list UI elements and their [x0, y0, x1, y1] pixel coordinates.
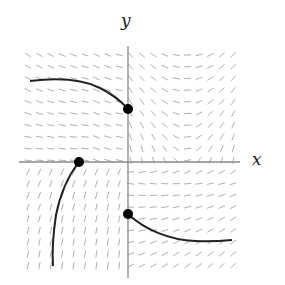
- slope-segment: [220, 134, 223, 140]
- slope-segment: [116, 113, 123, 115]
- slope-segment: [39, 239, 41, 246]
- slope-segment: [104, 148, 111, 150]
- slope-segment: [196, 263, 202, 267]
- slope-segment: [185, 264, 191, 268]
- slope-segment: [70, 89, 77, 91]
- slope-segment: [232, 145, 234, 152]
- slope-segment: [151, 76, 157, 80]
- slope-segment: [93, 89, 100, 92]
- initial-point: [74, 157, 84, 167]
- slope-segment: [162, 54, 169, 57]
- slope-segment: [173, 229, 180, 232]
- slope-segment: [70, 113, 77, 114]
- slope-segment: [150, 183, 157, 184]
- slope-segment: [116, 54, 123, 56]
- initial-point: [123, 104, 133, 114]
- slope-segment: [107, 192, 109, 199]
- slope-segment: [107, 180, 109, 187]
- slope-segment: [128, 64, 133, 70]
- slope-segment: [93, 100, 100, 103]
- slope-segment: [196, 112, 202, 115]
- slope-segment: [72, 180, 74, 187]
- slope-segment: [73, 239, 74, 246]
- slope-segment: [107, 204, 109, 211]
- slope-segment: [173, 206, 180, 208]
- slope-segment: [150, 171, 157, 173]
- slope-segment: [140, 76, 145, 81]
- slope-segment: [73, 192, 75, 199]
- slope-segment: [47, 148, 54, 149]
- slope-segment: [36, 89, 43, 92]
- slope-segment: [27, 204, 29, 211]
- slope-segment: [82, 101, 89, 102]
- slope-segment: [173, 78, 180, 80]
- slope-segment: [118, 180, 120, 187]
- slope-segment: [139, 64, 144, 69]
- slope-segment: [84, 239, 85, 246]
- slope-segment: [161, 218, 168, 220]
- slope-segment: [27, 239, 29, 246]
- slope-segment: [36, 113, 43, 115]
- slope-segment: [116, 78, 123, 80]
- slope-segment: [196, 195, 203, 197]
- y-axis-label: y: [121, 10, 131, 30]
- slope-segment: [162, 123, 167, 128]
- slope-segment: [162, 111, 168, 115]
- slope-segment: [161, 229, 168, 231]
- slope-segment: [173, 89, 180, 91]
- slope-segment: [130, 145, 132, 152]
- slope-segment: [140, 87, 145, 93]
- slope-segment: [150, 241, 157, 244]
- slope-segment: [139, 264, 145, 267]
- slope-segment: [196, 217, 203, 220]
- slope-segment: [151, 88, 156, 93]
- slope-segment: [119, 215, 120, 222]
- slope-segment: [173, 112, 180, 114]
- slope-segment: [116, 124, 123, 126]
- slope-segment: [140, 122, 143, 128]
- slope-segment: [116, 89, 123, 91]
- slope-segment: [230, 206, 236, 209]
- slope-segment: [231, 64, 236, 69]
- slope-segment: [185, 252, 191, 256]
- slope-segment: [231, 110, 235, 116]
- slope-segment: [118, 169, 121, 176]
- slope-segment: [93, 112, 100, 115]
- slope-segment: [207, 65, 213, 68]
- slope-segment: [152, 157, 154, 164]
- slope-segment: [84, 204, 86, 211]
- slope-segment: [152, 145, 155, 152]
- slope-segment: [119, 239, 120, 246]
- slope-segment: [104, 159, 111, 161]
- slope-segment: [196, 100, 203, 103]
- slope-segment: [220, 111, 224, 117]
- slope-segment: [61, 215, 63, 222]
- slope-segment: [184, 160, 191, 161]
- slope-segment: [196, 229, 202, 232]
- slope-segment: [129, 99, 133, 105]
- slope-segment: [47, 89, 54, 91]
- slope-segments: [24, 52, 236, 269]
- slope-segment: [129, 134, 131, 141]
- slope-segment: [173, 241, 179, 244]
- slope-segment: [161, 195, 168, 196]
- slope-segment: [173, 171, 180, 173]
- slope-segment: [82, 54, 89, 56]
- slope-segment: [107, 262, 108, 269]
- slope-segment: [150, 53, 156, 57]
- slope-segment: [38, 180, 41, 187]
- slope-segment: [150, 207, 157, 208]
- slope-segment: [38, 204, 40, 211]
- slope-segment: [104, 136, 111, 138]
- slope-segment: [150, 218, 157, 219]
- slope-segment: [81, 113, 88, 114]
- x-axis-label: x: [252, 149, 262, 169]
- slope-segment: [47, 101, 54, 103]
- slope-segment: [184, 125, 191, 126]
- slope-segment: [36, 148, 43, 149]
- slope-segment: [116, 136, 123, 138]
- slope-segment: [96, 262, 97, 269]
- slope-segment: [107, 227, 108, 234]
- slope-segment: [162, 252, 168, 255]
- slope-segment: [230, 217, 236, 221]
